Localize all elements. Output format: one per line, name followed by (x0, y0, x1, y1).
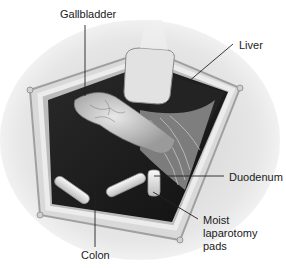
label-liver: Liver (239, 39, 263, 52)
label-pads-line-3: pads (203, 240, 273, 253)
label-moist-laparotomy-pads: Moist laparotomy pads (203, 214, 273, 253)
label-gallbladder: Gallbladder (60, 8, 116, 21)
label-colon: Colon (81, 249, 110, 262)
retractor-blade (124, 48, 174, 104)
label-pads-line-2: laparotomy (203, 227, 273, 240)
label-duodenum: Duodenum (229, 171, 283, 184)
label-pads-line-1: Moist (203, 214, 273, 227)
